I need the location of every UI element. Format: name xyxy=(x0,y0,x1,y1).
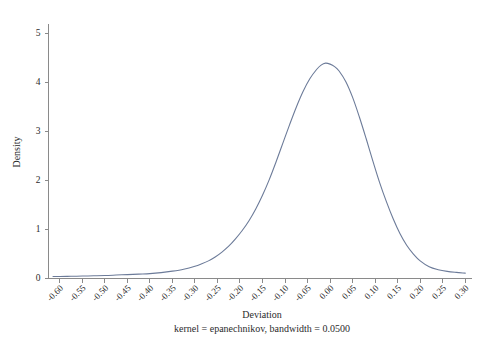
x-axis-tick-label: 0.15 xyxy=(385,282,404,301)
x-axis-tick-label: 0.30 xyxy=(452,282,471,301)
chart-canvas: 012345 -0.60-0.55-0.50-0.45-0.40-0.35-0.… xyxy=(0,0,497,343)
kernel-bandwidth-note: kernel = epanechnikov, bandwidth = 0.050… xyxy=(174,323,350,334)
y-axis-tick-label: 1 xyxy=(36,224,41,234)
y-axis-tick-label: 3 xyxy=(36,126,41,136)
x-axis-tick-label: 0.20 xyxy=(407,282,426,301)
x-axis-tick-label: -0.55 xyxy=(67,282,88,303)
x-axis-tick-label: -0.25 xyxy=(203,282,224,303)
x-axis-tick-label: 0.00 xyxy=(317,282,336,301)
x-axis-title: Deviation xyxy=(242,309,281,320)
x-axis-tick-label: -0.45 xyxy=(112,282,133,303)
x-axis-tick-label: -0.05 xyxy=(293,282,314,303)
x-axis-tick-label: 0.05 xyxy=(340,282,359,301)
y-axis-tick-label: 5 xyxy=(36,28,41,38)
x-axis-tick-label: -0.40 xyxy=(135,282,156,303)
y-axis-tick-group: 012345 xyxy=(36,28,49,283)
x-axis-tick-label: -0.10 xyxy=(270,282,291,303)
x-axis-tick-label: -0.35 xyxy=(157,282,178,303)
x-axis-tick-label: -0.60 xyxy=(45,282,66,303)
y-axis-tick-label: 0 xyxy=(36,273,41,283)
density-plot-figure: 012345 -0.60-0.55-0.50-0.45-0.40-0.35-0.… xyxy=(0,0,497,343)
density-curve xyxy=(53,63,465,276)
y-axis-tick-label: 4 xyxy=(36,77,41,87)
x-axis-tick-group: -0.60-0.55-0.50-0.45-0.40-0.35-0.30-0.25… xyxy=(45,279,471,304)
x-axis-tick-label: 0.10 xyxy=(362,282,381,301)
x-axis-tick-label: -0.20 xyxy=(225,282,246,303)
y-axis-title: Density xyxy=(11,136,22,167)
y-axis-tick-label: 2 xyxy=(36,175,41,185)
x-axis-tick-label: -0.15 xyxy=(248,282,269,303)
x-axis-tick-label: 0.25 xyxy=(430,282,449,301)
x-axis-tick-label: -0.30 xyxy=(180,282,201,303)
x-axis-tick-label: -0.50 xyxy=(90,282,111,303)
